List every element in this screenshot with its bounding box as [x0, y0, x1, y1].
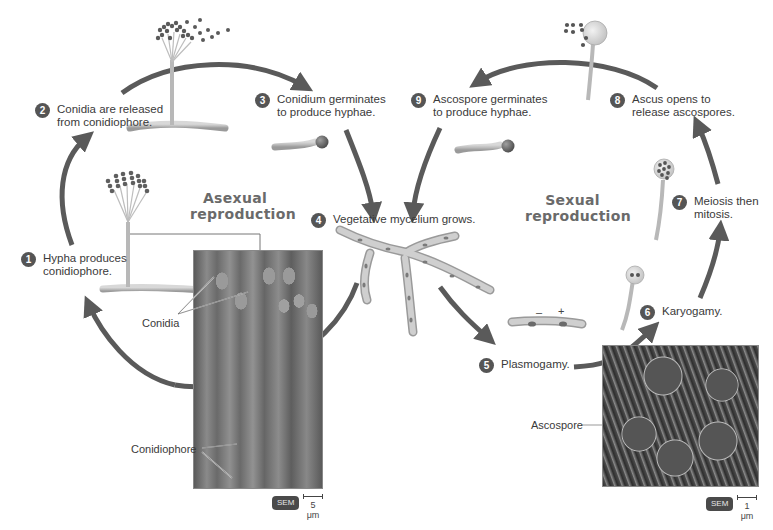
- step-text: Vegetative mycelium grows.: [333, 213, 476, 226]
- step-text: Plasmogamy.: [501, 358, 570, 371]
- step-number-badge: 7: [672, 195, 687, 210]
- meiosis-ascus: [654, 159, 674, 240]
- step-text: Conidia are released from conidiophore.: [57, 103, 163, 129]
- step-number-badge: 1: [21, 252, 36, 267]
- arrow-5-to-6-start: [574, 362, 605, 367]
- step-text: Conidium germinates to produce hyphae.: [277, 93, 386, 119]
- step-9: 9 Ascospore germinates to produce hyphae…: [411, 93, 547, 119]
- sexual-reproduction-title: Sexual reproduction: [525, 192, 620, 224]
- scale-bar-line: [737, 495, 757, 500]
- arrow-1-to-2: [62, 138, 86, 245]
- step-4: 4 Vegetative mycelium grows.: [311, 213, 476, 228]
- scale-bar-label: 1 μm: [741, 501, 754, 521]
- step-number-badge: 9: [411, 93, 426, 108]
- scale-bar-1um: 1 μm: [737, 495, 757, 521]
- scale-bar-label: 5 μm: [307, 500, 320, 520]
- arrow-2-to-3: [122, 65, 304, 93]
- step-3: 3 Conidium germinates to produce hyphae.: [255, 93, 386, 119]
- step-text: Meiosis then mitosis.: [694, 195, 759, 221]
- minus-mating-type: –: [536, 306, 542, 318]
- germinating-conidium: [275, 136, 329, 149]
- plasmogamy-cells: [512, 321, 582, 327]
- step-2: 2 Conidia are released from conidiophore…: [35, 103, 163, 129]
- fungal-life-cycle-diagram: Asexual reproduction Sexual reproduction…: [0, 0, 773, 530]
- scale-bar-line: [303, 494, 323, 499]
- arrow-9-to-4: [413, 128, 440, 213]
- arrow-3-to-4: [346, 130, 373, 213]
- asexual-sem-micrograph: [193, 250, 323, 489]
- sem-badge-asexual: SEM: [272, 496, 299, 510]
- scale-bar-5um: 5 μm: [303, 494, 323, 520]
- step-text: Karyogamy.: [662, 305, 723, 318]
- karyogamy-ascus: [622, 266, 644, 330]
- step-number-badge: 5: [479, 358, 494, 373]
- arrow-7-to-8: [698, 125, 718, 184]
- step-text: Ascospore germinates to produce hyphae.: [433, 93, 547, 119]
- step-text: Hypha produces conidiophore.: [43, 252, 127, 278]
- step-8: 8 Ascus opens to release ascospores.: [610, 93, 735, 119]
- sexual-sem-micrograph: [602, 345, 759, 487]
- step-text: Ascus opens to release ascospores.: [632, 93, 735, 119]
- germinating-ascospore: [458, 140, 515, 153]
- step-number-badge: 3: [255, 93, 270, 108]
- step-number-badge: 8: [610, 93, 625, 108]
- sem-badge-sexual: SEM: [706, 497, 733, 511]
- step-1: 1 Hypha produces conidiophore.: [21, 252, 127, 278]
- conidiophore-label: Conidiophore: [131, 443, 196, 455]
- step-6: 6 Karyogamy.: [640, 305, 723, 320]
- step-number-badge: 6: [640, 305, 655, 320]
- step-number-badge: 4: [311, 213, 326, 228]
- arrow-8-to-9: [478, 62, 657, 88]
- arrow-4-to-5: [440, 287, 488, 338]
- asexual-reproduction-title: Asexual reproduction: [190, 190, 280, 222]
- ascospore-label: Ascospore: [531, 419, 583, 431]
- step-7: 7 Meiosis then mitosis.: [672, 195, 759, 221]
- conidia-label: Conidia: [142, 317, 179, 329]
- plus-mating-type: +: [558, 305, 564, 317]
- step-5: 5 Plasmogamy.: [479, 358, 570, 373]
- step-number-badge: 2: [35, 103, 50, 118]
- arrow-6-to-7: [700, 230, 720, 298]
